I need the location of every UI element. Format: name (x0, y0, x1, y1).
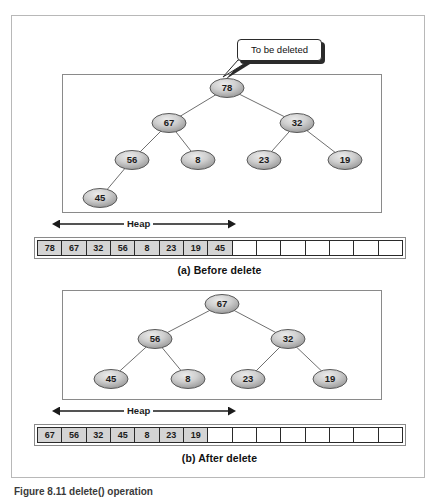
array-cell-empty (232, 427, 257, 443)
callout-to-be-deleted: To be deleted (237, 39, 322, 61)
array-cell-empty (305, 427, 330, 443)
figure-caption: Figure 8.11 delete() operation (14, 486, 153, 497)
array-cell-filled: 8 (134, 427, 159, 443)
tree-panel-before-delete (62, 74, 382, 213)
array-cell-empty (232, 240, 257, 256)
subcaption-before-delete: (a) Before delete (0, 264, 439, 276)
array-cell-filled: 32 (86, 240, 111, 256)
array-cell-filled: 32 (86, 427, 111, 443)
array-cell-filled: 8 (134, 240, 159, 256)
heap-span-label-before: Heap (124, 219, 153, 229)
array-cell-filled: 23 (159, 427, 184, 443)
array-cell-empty (353, 427, 378, 443)
array-cell-empty (207, 427, 232, 443)
array-cell-empty (329, 427, 354, 443)
array-cell-filled: 56 (110, 240, 135, 256)
array-cell-filled: 67 (61, 240, 86, 256)
callout-text: To be deleted (237, 39, 322, 61)
array-cell-filled: 45 (207, 240, 232, 256)
array-cell-empty (305, 240, 330, 256)
array-cell-empty (329, 240, 354, 256)
array-cell-empty (378, 240, 403, 256)
array-cell-empty (280, 240, 305, 256)
array-cell-empty (256, 240, 281, 256)
figure-heap-delete: 786732568231945 6756324582319 To be dele… (0, 0, 439, 499)
array-cell-empty (280, 427, 305, 443)
array-cell-filled: 23 (159, 240, 184, 256)
array-cell-filled: 56 (61, 427, 86, 443)
heap-array-after-delete: 6756324582319 (34, 424, 406, 446)
heap-array-before-delete: 786732568231945 (34, 237, 406, 259)
array-cell-filled: 19 (183, 240, 208, 256)
array-cell-empty (378, 427, 403, 443)
array-cell-filled: 45 (110, 427, 135, 443)
array-cell-filled: 19 (183, 427, 208, 443)
array-cell-filled: 67 (37, 427, 62, 443)
subcaption-after-delete: (b) After delete (0, 452, 439, 464)
array-cell-empty (256, 427, 281, 443)
heap-span-label-after: Heap (124, 406, 153, 416)
array-cell-empty (353, 240, 378, 256)
array-cell-filled: 78 (37, 240, 62, 256)
tree-panel-after-delete (62, 290, 382, 400)
